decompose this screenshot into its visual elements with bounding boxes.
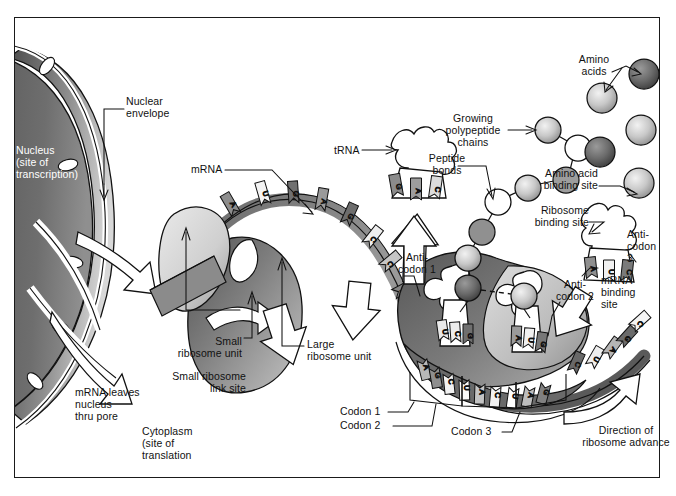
amino-acid-sphere [585, 137, 615, 167]
label-codon-2: Codon 2 [340, 419, 392, 431]
label-mrna-binding-site: mRNA binding site [601, 274, 647, 311]
label-small-ribosome-unit: Small ribosome unit [150, 335, 242, 359]
label-peptide-bonds: Peptide bonds [420, 152, 474, 176]
label-mrna: mRNA [191, 163, 235, 175]
label-nucleus: Nucleus (site of transcription) [16, 144, 108, 181]
label-direction-of-ribosome-advance: Direction of ribosome advance [574, 424, 676, 448]
svg-text:U: U [462, 385, 471, 391]
label-anticodon-1: Anti- codon 1 [390, 251, 444, 275]
label-anticodon-3: Anti- codon 3 [627, 228, 669, 265]
label-codon-1: Codon 1 [340, 405, 392, 417]
diagram-canvas: C A U G A [0, 0, 676, 496]
label-cytoplasm: Cytoplasm (site of translation [142, 425, 230, 462]
label-growing-polypeptide-chains: Growing polypeptide chains [437, 112, 509, 149]
amino-acid-sphere [626, 115, 656, 145]
amino-acid-sphere [629, 59, 659, 89]
svg-text:A: A [414, 188, 423, 193]
label-large-ribosome-unit: Large ribosome unit [307, 338, 383, 362]
label-small-ribosome-link-site: Small ribosome link site [138, 370, 246, 394]
svg-text:U: U [526, 337, 535, 343]
amino-acid-sphere [624, 168, 654, 198]
svg-text:A: A [514, 335, 523, 340]
label-ribosome-binding-site: Ribosome binding site [521, 204, 589, 228]
label-amino-acid-binding-site: Amino acid binding site [518, 167, 598, 191]
svg-text:A: A [478, 389, 487, 394]
label-nuclear-envelope: Nuclear envelope [126, 95, 206, 119]
amino-acid-sphere [587, 83, 617, 113]
label-trna: tRNA [334, 144, 370, 156]
label-anticodon-2: Anti- codon 2 [548, 278, 602, 302]
svg-text:A: A [589, 266, 598, 272]
svg-text:G: G [466, 333, 475, 339]
label-codon-3: Codon 3 [451, 425, 503, 437]
label-amino-acids: Amino acids [570, 53, 618, 77]
